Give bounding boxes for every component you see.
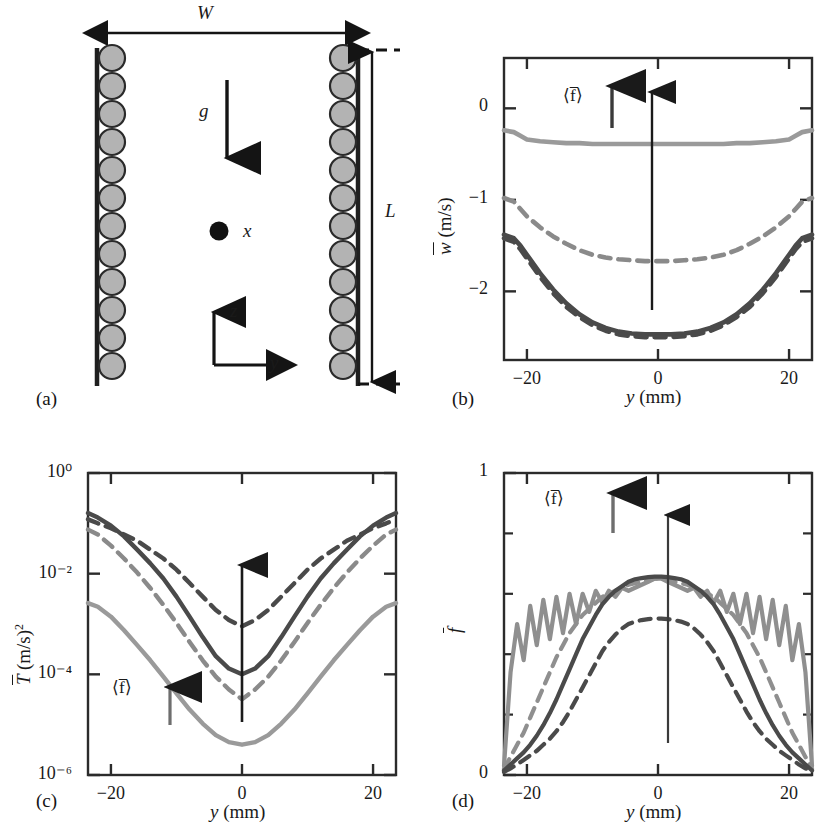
xtick-label: 20 bbox=[761, 368, 817, 389]
data-curve bbox=[504, 198, 812, 261]
data-curve bbox=[504, 130, 812, 144]
data-curve bbox=[504, 235, 812, 335]
panel-b-flux-annotation: ⟨f̅⟩ bbox=[563, 85, 583, 106]
panel-b-chart: y (mm) w (m/s) ⟨f̅⟩ −200200−1−2 bbox=[416, 0, 832, 420]
gravity-label: g bbox=[199, 100, 209, 122]
ytick-label: −1 bbox=[416, 187, 488, 208]
panel-d-ylabel: f bbox=[444, 628, 466, 633]
figure-root: W L g x z y y (mm) w (m/s) ⟨f̅⟩ −200200−… bbox=[0, 0, 832, 835]
xtick-label: 0 bbox=[214, 783, 270, 804]
data-curve bbox=[504, 619, 812, 772]
ytick-label: 0 bbox=[416, 762, 488, 783]
xtick-label: 20 bbox=[345, 783, 401, 804]
xtick-label: 20 bbox=[761, 783, 817, 804]
ytick-label: 10⁻⁴ bbox=[0, 661, 72, 683]
panel-b-xlabel: y (mm) bbox=[626, 386, 681, 408]
panel-label-b: (b) bbox=[452, 388, 474, 410]
xtick-label: −20 bbox=[499, 368, 555, 389]
panel-label-d: (d) bbox=[452, 790, 474, 812]
panel-d-chart: y (mm) f ⟨f̅⟩ −2002001 bbox=[416, 415, 832, 835]
x-axis-label: x bbox=[243, 220, 251, 242]
ytick-label: −2 bbox=[416, 278, 488, 299]
panel-label-c: (c) bbox=[36, 790, 57, 812]
ytick-label: 10⁻² bbox=[0, 561, 72, 583]
ytick-label: 0 bbox=[416, 95, 488, 116]
panel-c-xlabel: y (mm) bbox=[210, 801, 265, 823]
xtick-label: −20 bbox=[499, 783, 555, 804]
right-wall bbox=[330, 45, 358, 386]
xtick-label: 0 bbox=[630, 368, 686, 389]
panel-c-chart: y (mm) T (m/s)2 ⟨f̅⟩ −2002010⁰10⁻²10⁻⁴10… bbox=[0, 415, 416, 835]
width-label: W bbox=[197, 2, 213, 24]
z-axis-label: z bbox=[230, 300, 237, 322]
schematic-svg bbox=[0, 0, 416, 420]
length-label: L bbox=[385, 200, 396, 222]
panel-b-plot bbox=[416, 0, 832, 420]
flux-direction-arrows bbox=[612, 86, 652, 310]
x-axis-out-of-page-dot bbox=[210, 222, 229, 241]
coordinate-axes bbox=[214, 312, 266, 365]
ytick-label: 1 bbox=[416, 460, 488, 481]
left-wall bbox=[97, 45, 125, 386]
ytick-label: 10⁻⁶ bbox=[0, 762, 72, 784]
panel-label-a: (a) bbox=[36, 388, 57, 410]
xtick-label: 0 bbox=[630, 783, 686, 804]
xtick-label: −20 bbox=[83, 783, 139, 804]
panel-c-flux-annotation: ⟨f̅⟩ bbox=[112, 677, 132, 698]
panel-a-schematic: W L g x z y bbox=[0, 0, 416, 420]
ytick-label: 10⁰ bbox=[0, 460, 72, 482]
right-wall-particles bbox=[330, 45, 356, 379]
y-axis-label: y bbox=[270, 352, 278, 374]
panel-d-flux-annotation: ⟨f̅⟩ bbox=[544, 488, 564, 509]
left-wall-particles bbox=[99, 45, 125, 379]
panel-d-xlabel: y (mm) bbox=[626, 801, 681, 823]
